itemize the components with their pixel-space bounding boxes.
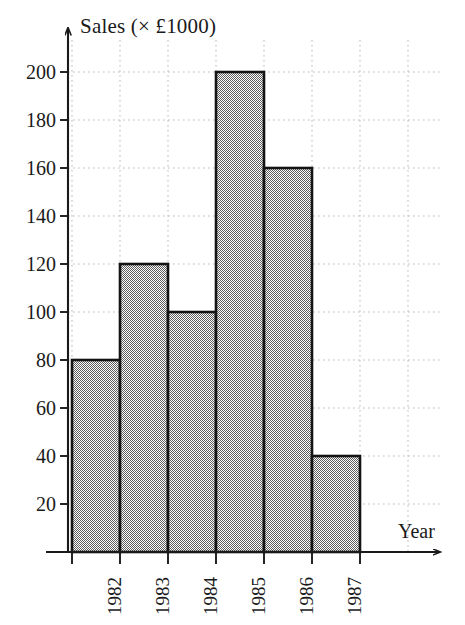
x-tick-label-1982: 1982 (105, 577, 124, 615)
x-axis-tick-labels: 198219831984198519861987 (0, 0, 465, 625)
x-tick-label-1984: 1984 (201, 577, 220, 615)
x-tick-label-1983: 1983 (153, 577, 172, 615)
x-tick-label-1987: 1987 (345, 577, 364, 615)
x-tick-label-1985: 1985 (249, 577, 268, 615)
x-tick-label-1986: 1986 (297, 577, 316, 615)
bar-chart-figure: Sales (× £1000) Year 2040608010012014016… (0, 0, 465, 625)
